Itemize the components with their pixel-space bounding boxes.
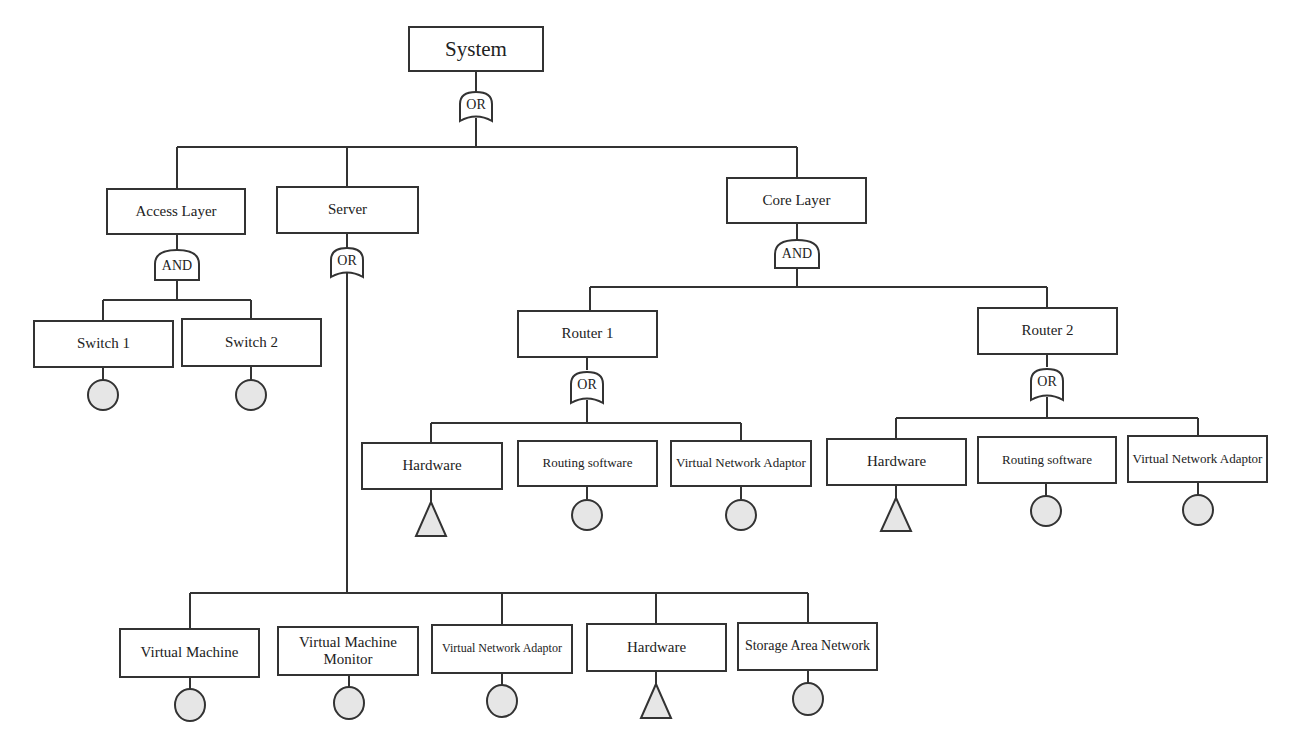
node-r2-hardware[interactable]: Hardware — [826, 438, 967, 486]
node-storage-area-network[interactable]: Storage Area Network — [737, 622, 878, 671]
and-gate-icon — [155, 240, 819, 280]
node-core-layer[interactable]: Core Layer — [726, 177, 867, 224]
node-r2-virtual-network-adaptor[interactable]: Virtual Network Adaptor — [1127, 435, 1268, 483]
node-r2-routing-software[interactable]: Routing software — [977, 436, 1117, 484]
node-server-hardware[interactable]: Hardware — [586, 623, 727, 672]
node-server-virtual-network-adaptor[interactable]: Virtual Network Adaptor — [431, 624, 573, 674]
node-system[interactable]: System — [408, 26, 544, 72]
transfer-triangle-icon — [416, 498, 911, 718]
node-switch-1[interactable]: Switch 1 — [33, 320, 174, 368]
node-switch-2[interactable]: Switch 2 — [181, 318, 322, 367]
node-router-2[interactable]: Router 2 — [977, 307, 1118, 355]
or-gate-icon — [331, 92, 1063, 403]
node-server[interactable]: Server — [276, 186, 419, 234]
node-r1-virtual-network-adaptor[interactable]: Virtual Network Adaptor — [670, 440, 812, 487]
node-router-1[interactable]: Router 1 — [517, 310, 658, 358]
node-r1-routing-software[interactable]: Routing software — [517, 440, 658, 487]
node-r1-hardware[interactable]: Hardware — [361, 442, 503, 490]
node-virtual-machine-monitor[interactable]: Virtual Machine Monitor — [277, 626, 419, 676]
node-virtual-machine[interactable]: Virtual Machine — [119, 628, 260, 678]
node-access-layer[interactable]: Access Layer — [106, 188, 246, 235]
